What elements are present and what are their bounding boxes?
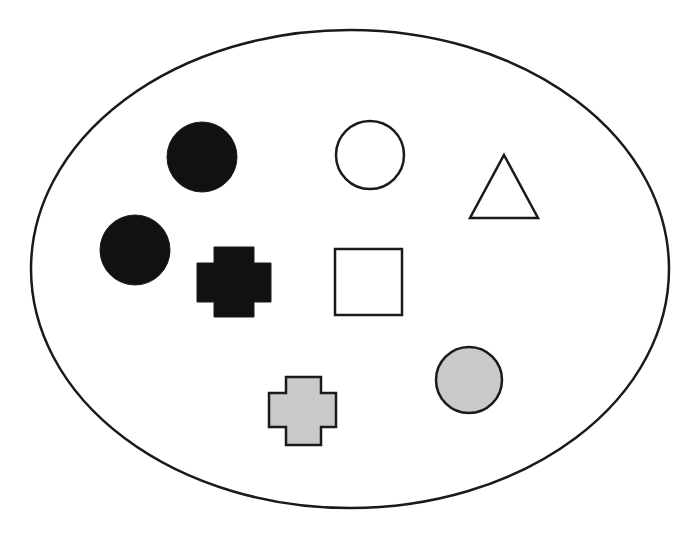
black-cross-icon: [197, 247, 271, 317]
white-triangle-icon: [470, 155, 538, 218]
white-square-icon: [335, 249, 402, 315]
shapes-group: [100, 121, 538, 445]
white-circle-icon: [336, 121, 404, 189]
black-circle-2-icon: [100, 215, 170, 285]
black-circle-1-icon: [167, 122, 237, 192]
gray-circle-icon: [436, 347, 502, 413]
diagram-canvas: [0, 0, 696, 533]
gray-cross-icon: [269, 377, 336, 445]
